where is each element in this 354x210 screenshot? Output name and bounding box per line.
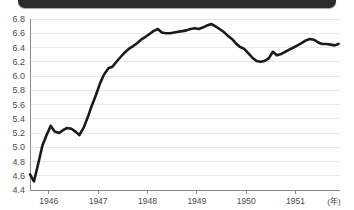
x-axis-tickmarks-group xyxy=(49,190,296,194)
x-axis-tick-label: 1946 xyxy=(39,196,58,206)
y-axis-tick-label: 6.4 xyxy=(12,43,25,53)
x-axis-unit-label: (年) xyxy=(327,196,341,206)
chart-figure: 6.86.66.46.26.05.85.65.45.25.04.84.64.4 … xyxy=(0,0,354,210)
y-axis-tick-label: 5.2 xyxy=(12,128,25,138)
y-axis-tick-label: 5.6 xyxy=(12,100,25,110)
y-axis-tick-label: 4.8 xyxy=(12,157,25,167)
x-axis-tick-label: 1951 xyxy=(286,196,305,206)
y-axis-tick-label: 6.0 xyxy=(12,71,25,81)
x-axis-tick-label: 1947 xyxy=(89,196,108,206)
gridlines-group xyxy=(30,19,340,190)
y-axis-tick-label: 5.4 xyxy=(12,114,25,124)
x-axis-tick-label: 1949 xyxy=(187,196,206,206)
y-axis-tick-label: 6.2 xyxy=(12,57,25,67)
y-axis-tick-label: 5.0 xyxy=(12,142,25,152)
y-axis-tick-label: 4.6 xyxy=(12,171,25,181)
y-axis-tick-label: 6.8 xyxy=(12,14,25,24)
y-axis-labels-group: 6.86.66.46.26.05.85.65.45.25.04.84.64.4 xyxy=(12,14,25,195)
y-axis-tick-label: 6.6 xyxy=(12,28,25,38)
x-axis-labels-group: 194619471948194919501951 xyxy=(39,196,305,206)
x-axis-tick-label: 1950 xyxy=(237,196,256,206)
y-axis-tick-label: 5.8 xyxy=(12,85,25,95)
x-axis-tick-label: 1948 xyxy=(138,196,157,206)
y-axis-tick-label: 4.4 xyxy=(12,185,25,195)
line-chart: 6.86.66.46.26.05.85.65.45.25.04.84.64.4 … xyxy=(0,0,354,210)
